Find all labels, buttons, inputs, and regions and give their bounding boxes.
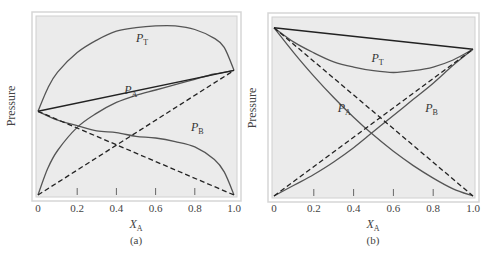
x-tick-labels: 00.20.40.60.81.0: [271, 202, 480, 214]
y-axis-label: Pressure: [4, 86, 18, 127]
x-tick-label: 1.0: [227, 202, 241, 214]
x-tick-label: 0.4: [347, 202, 361, 214]
x-tick-label: 0.6: [149, 202, 163, 214]
panel-label: (b): [367, 234, 380, 247]
x-tick-labels: 00.20.40.60.81.0: [35, 202, 241, 214]
panel-b: 00.20.40.60.81.0 Pressure XA (b) PTPAPB: [245, 13, 480, 247]
x-tick-label: 0.6: [387, 202, 401, 214]
panel-label: (a): [130, 234, 143, 247]
x-tick-label: 0.8: [426, 202, 440, 214]
y-axis-label: Pressure: [245, 88, 259, 129]
x-tick-label: 0: [271, 202, 277, 214]
x-tick-label: 0.2: [70, 202, 84, 214]
x-axis-label: XA: [128, 217, 142, 233]
x-tick-label: 0.2: [307, 202, 321, 214]
x-axis-label: XA: [365, 217, 379, 233]
vapor-pressure-figure: 00.20.40.60.81.0 Pressure XA (a) PTPAPB …: [0, 0, 496, 258]
x-tick-label: 0: [35, 202, 41, 214]
panel-a: 00.20.40.60.81.0 Pressure XA (a) PTPAPB: [4, 12, 241, 247]
plot-area: [272, 17, 475, 198]
x-tick-label: 0.8: [188, 202, 202, 214]
x-tick-label: 0.4: [110, 202, 124, 214]
x-tick-label: 1.0: [466, 202, 480, 214]
